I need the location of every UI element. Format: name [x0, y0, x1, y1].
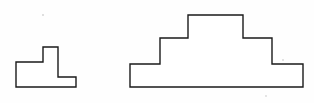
- figures-svg: [0, 0, 314, 103]
- speck-upper-left: [42, 14, 44, 16]
- speck-lower-right: [265, 95, 267, 97]
- figure-canvas: [0, 0, 314, 103]
- speck-right-mid: [282, 59, 284, 61]
